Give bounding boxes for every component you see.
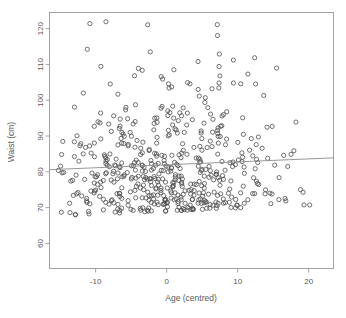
y-tick-label: 90 [36,131,45,140]
x-tick-label: -10 [90,277,102,286]
y-axis-title: Waist (cm) [6,122,16,162]
y-tick-label: 80 [36,167,45,176]
y-tick-label: 100 [36,93,45,107]
y-tick-label: 110 [36,57,45,70]
plot-background [0,0,346,318]
scatter-plot-figure: -1001020 60708090100110120 Age (centred)… [0,0,346,318]
y-tick-label: 120 [36,21,45,35]
plot-canvas: -1001020 60708090100110120 Age (centred)… [0,0,346,318]
y-tick-label: 70 [36,203,45,212]
x-tick-label: 20 [304,277,313,286]
y-tick-label: 60 [36,238,45,247]
x-tick-label: 10 [233,277,242,286]
x-tick-label: 0 [164,277,169,286]
x-axis-title: Age (centred) [165,293,217,303]
